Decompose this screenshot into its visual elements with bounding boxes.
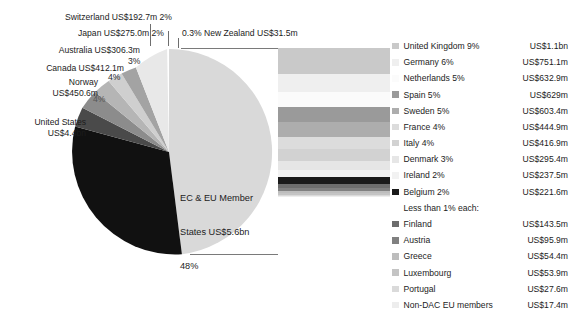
legend-label: Luxembourg xyxy=(404,268,515,278)
legend-swatch xyxy=(392,221,399,228)
callout-norway-line2: US$450.6m xyxy=(0,88,98,99)
legend-label: France 4% xyxy=(404,122,515,132)
legend-value: US$54.4m xyxy=(514,251,568,261)
legend-swatch xyxy=(392,75,399,82)
legend-row[interactable]: Denmark 3%US$295.4m xyxy=(392,151,568,167)
bar-segment[interactable] xyxy=(278,149,390,161)
legend-row[interactable]: AustriaUS$95.9m xyxy=(392,232,568,248)
legend-label: Finland xyxy=(404,219,515,229)
legend: United Kingdom 9%US$1.1bnGermany 6%US$75… xyxy=(392,38,568,313)
bar-segment[interactable] xyxy=(278,122,390,137)
legend-label: Non-DAC EU members xyxy=(404,300,515,310)
callout-australia: Australia US$306.3m xyxy=(0,45,140,56)
legend-row[interactable]: United Kingdom 9%US$1.1bn xyxy=(392,38,568,54)
exploded-stacked-bar xyxy=(278,48,390,255)
legend-value: US$416.9m xyxy=(514,138,568,148)
legend-swatch xyxy=(392,237,399,244)
legend-value: US$17.4m xyxy=(514,300,568,310)
legend-value: US$1.1bn xyxy=(514,41,568,51)
legend-value: US$632.9m xyxy=(514,73,568,83)
legend-row[interactable]: Italy 4%US$416.9m xyxy=(392,135,568,151)
legend-row[interactable]: Non-DAC EU membersUS$17.4m xyxy=(392,297,568,313)
legend-row[interactable]: FinlandUS$143.5m xyxy=(392,216,568,232)
bar-segment[interactable] xyxy=(278,170,390,177)
legend-value: US$27.6m xyxy=(514,284,568,294)
legend-value: US$143.5m xyxy=(514,219,568,229)
legend-swatch xyxy=(392,286,399,293)
legend-row[interactable]: LuxembourgUS$53.9m xyxy=(392,265,568,281)
callout-norway-line1: Norway xyxy=(0,77,98,88)
leader-line-new-zealand xyxy=(178,38,179,48)
legend-label: Germany 6% xyxy=(404,57,515,67)
pie-slice-label-ec-eu-line1: EC & EU Member xyxy=(180,193,253,204)
pie-slice-label-ec-eu: EC & EU Member States US$5.6bn 48% xyxy=(180,170,253,295)
legend-label: Austria xyxy=(404,235,515,245)
legend-label: Portugal xyxy=(404,284,515,294)
legend-swatch xyxy=(392,253,399,260)
pie-slice-label-ec-eu-line2: States US$5.6bn xyxy=(180,227,253,238)
legend-label: Sweden 5% xyxy=(404,106,515,116)
legend-subheading-label: Less than 1% each: xyxy=(404,203,568,213)
bar-segment[interactable] xyxy=(278,48,390,74)
legend-value: US$95.9m xyxy=(514,235,568,245)
legend-row[interactable]: GreeceUS$54.4m xyxy=(392,248,568,264)
legend-swatch xyxy=(392,108,399,115)
legend-swatch xyxy=(392,302,399,309)
legend-row[interactable]: Germany 6%US$751.1m xyxy=(392,54,568,70)
legend-swatch xyxy=(392,156,399,163)
callout-japan: Japan US$275.0m 2% xyxy=(0,28,164,39)
legend-swatch xyxy=(392,124,399,131)
bar-segment[interactable] xyxy=(278,137,390,149)
legend-value: US$603.4m xyxy=(514,106,568,116)
legend-swatch xyxy=(392,172,399,179)
legend-row[interactable]: Netherlands 5%US$632.9m xyxy=(392,70,568,86)
connector-top xyxy=(181,48,278,49)
legend-label: Belgium 2% xyxy=(404,187,515,197)
legend-swatch xyxy=(392,140,399,147)
legend-label: Italy 4% xyxy=(404,138,515,148)
bar-segment[interactable] xyxy=(278,196,390,197)
legend-swatch xyxy=(392,43,399,50)
callout-united-states-line2: US$4.4bn xyxy=(0,128,86,139)
callout-switzerland: Switzerland US$192.7m 2% xyxy=(0,12,172,23)
legend-row[interactable]: Sweden 5%US$603.4m xyxy=(392,103,568,119)
bar-segment[interactable] xyxy=(278,107,390,122)
legend-value: US$444.9m xyxy=(514,122,568,132)
legend-label: Spain 5% xyxy=(404,90,515,100)
legend-value: US$295.4m xyxy=(514,154,568,164)
legend-swatch xyxy=(392,269,399,276)
legend-swatch xyxy=(392,189,399,196)
bar-segment[interactable] xyxy=(278,177,390,184)
legend-value: US$751.1m xyxy=(514,57,568,67)
leader-line-switzerland xyxy=(150,24,151,46)
legend-swatch xyxy=(392,59,399,66)
bar-segment[interactable] xyxy=(278,74,390,92)
legend-row[interactable]: Spain 5%US$629m xyxy=(392,87,568,103)
leader-line-japan xyxy=(168,31,169,46)
legend-swatch-placeholder xyxy=(392,205,399,212)
legend-value: US$237.5m xyxy=(514,170,568,180)
legend-swatch xyxy=(392,91,399,98)
legend-value: US$629m xyxy=(514,90,568,100)
legend-subheading-row: Less than 1% each: xyxy=(392,200,568,216)
callout-new-zealand: 0.3% New Zealand US$31.5m xyxy=(182,28,382,39)
legend-row[interactable]: Belgium 2%US$221.6m xyxy=(392,184,568,200)
connector-bottom xyxy=(190,254,278,255)
legend-value: US$53.9m xyxy=(514,268,568,278)
legend-value: US$221.6m xyxy=(514,187,568,197)
legend-label: Denmark 3% xyxy=(404,154,515,164)
legend-label: Ireland 2% xyxy=(404,170,515,180)
legend-row[interactable]: PortugalUS$27.6m xyxy=(392,281,568,297)
legend-row[interactable]: France 4%US$444.9m xyxy=(392,119,568,135)
legend-label: United Kingdom 9% xyxy=(404,41,515,51)
callout-united-states-line1: United States xyxy=(0,117,86,128)
pie-pct-australia: 3% xyxy=(128,56,140,66)
bar-segment[interactable] xyxy=(278,161,390,170)
legend-label: Greece xyxy=(404,251,515,261)
legend-row[interactable]: Ireland 2%US$237.5m xyxy=(392,168,568,184)
callout-canada: Canada US$412.1m xyxy=(0,63,124,74)
legend-label: Netherlands 5% xyxy=(404,73,515,83)
bar-segment[interactable] xyxy=(278,92,390,107)
pie-slice-label-ec-eu-line3: 48% xyxy=(180,261,253,272)
